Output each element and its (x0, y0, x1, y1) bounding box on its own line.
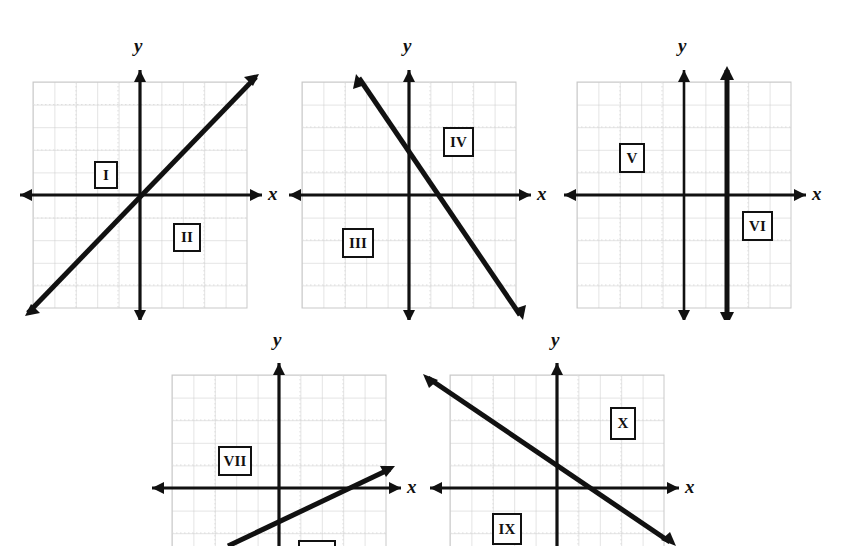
quadrant-label-VII: VII (218, 446, 252, 476)
graph-5-y-label: y (551, 336, 559, 349)
graph-4-canvas (140, 336, 430, 546)
graph-4: y x VII VIII (140, 336, 430, 546)
graph-5: y x X IX (418, 336, 708, 546)
quadrant-label-X: X (610, 407, 636, 440)
clipped-header-text: · · · (0, 0, 842, 5)
quadrant-label-III: III (342, 228, 374, 258)
graph-2-x-label: x (537, 184, 547, 203)
graph-5-x-label: x (685, 477, 695, 496)
quadrant-label-VI: VI (742, 211, 773, 241)
worksheet-page: · · · (0, 0, 842, 546)
quadrant-label-IV: IV (443, 127, 474, 157)
graph-2: y x IV III (285, 30, 575, 320)
quadrant-label-I: I (94, 161, 118, 189)
graph-3-x-label: x (812, 184, 822, 203)
graph-3-canvas (556, 30, 842, 320)
quadrant-label-II: II (173, 223, 201, 252)
graph-4-y-label: y (273, 336, 281, 349)
quadrant-label-V: V (619, 143, 645, 173)
graph-2-y-label: y (403, 36, 411, 55)
graph-1-x-label: x (268, 184, 278, 203)
graph-3-y-label: y (678, 36, 686, 55)
graph-5-canvas (418, 336, 708, 546)
graph-3: y x V VI (556, 30, 842, 320)
graph-1-y-label: y (134, 36, 142, 55)
graph-1: y x I II (6, 30, 296, 320)
graph-2-canvas (285, 30, 575, 320)
graph-4-x-label: x (407, 477, 417, 496)
quadrant-label-IX: IX (492, 513, 522, 545)
quadrant-label-VIII: VIII (298, 540, 336, 546)
graph-1-canvas (6, 30, 296, 320)
